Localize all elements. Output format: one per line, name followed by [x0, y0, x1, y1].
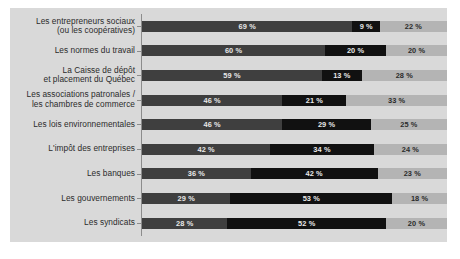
bar-segment-value: 42 %: [305, 169, 322, 178]
category-label-line2: les chambres de commerce: [10, 100, 135, 110]
category-label: Les entrepreneurs sociaux(ou les coopéra…: [10, 17, 141, 36]
chart-row: Les gouvernements29 %53 %18 %: [10, 186, 447, 211]
category-axis-line: [141, 14, 142, 236]
bar-segment-3: 25 %: [371, 119, 447, 130]
stacked-bar: 46 %21 %33 %: [142, 95, 447, 106]
bar-segment-1: 29 %: [142, 193, 230, 204]
bar-segment-value: 46 %: [204, 120, 221, 129]
category-label-line1: L'impôt des entreprises: [48, 143, 135, 153]
bar-segment-3: 28 %: [362, 70, 447, 81]
chart-row: Les entrepreneurs sociaux(ou les coopéra…: [10, 14, 447, 39]
bar-segment-2: 34 %: [270, 144, 374, 155]
bar-segment-2: 13 %: [322, 70, 362, 81]
bar-segment-value: 29 %: [318, 120, 335, 129]
bar-segment-1: 46 %: [142, 95, 282, 106]
bar-segment-value: 23 %: [404, 169, 421, 178]
bar-segment-2: 29 %: [282, 119, 370, 130]
chart-panel: Les entrepreneurs sociaux(ou les coopéra…: [10, 8, 447, 242]
chart-root: Les entrepreneurs sociaux(ou les coopéra…: [0, 0, 460, 259]
bar-segment-value: 20 %: [408, 219, 425, 228]
bar-segment-value: 34 %: [313, 145, 330, 154]
bar-segment-3: 20 %: [386, 45, 447, 56]
bar-segment-2: 52 %: [227, 218, 386, 229]
stacked-bar: 69 %9 %22 %: [142, 21, 447, 32]
category-label-line1: Les gouvernements: [61, 193, 135, 203]
bar-segment-3: 24 %: [374, 144, 447, 155]
bar-segment-1: 59 %: [142, 70, 322, 81]
chart-row: Les associations patronales /les chambre…: [10, 88, 447, 113]
chart-row: L'impôt des entreprises42 %34 %24 %: [10, 137, 447, 162]
bar-segment-1: 36 %: [142, 168, 251, 179]
bar-segment-value: 33 %: [388, 96, 405, 105]
bar-segment-1: 42 %: [142, 144, 270, 155]
stacked-bar: 60 %20 %20 %: [142, 45, 447, 56]
bar-segment-1: 69 %: [142, 21, 352, 32]
bar-segment-3: 20 %: [386, 218, 447, 229]
category-label-line1: Les normes du travail: [55, 45, 135, 55]
stacked-bar: 36 %42 %23 %: [142, 168, 447, 179]
bar-segment-value: 69 %: [239, 22, 256, 31]
bar-segment-1: 28 %: [142, 218, 227, 229]
category-label: Les banques: [10, 169, 141, 179]
bar-segment-2: 42 %: [251, 168, 378, 179]
bar-segment-3: 22 %: [380, 21, 447, 32]
chart-row: Les syndicats28 %52 %20 %: [10, 211, 447, 236]
category-label-line1: Les banques: [87, 168, 135, 178]
bar-segment-value: 28 %: [176, 219, 193, 228]
bar-segment-value: 20 %: [408, 46, 425, 55]
chart-plot-area: Les entrepreneurs sociaux(ou les coopéra…: [10, 14, 447, 236]
category-label: Les gouvernements: [10, 194, 141, 204]
bar-segment-2: 9 %: [352, 21, 379, 32]
bar-segment-value: 36 %: [188, 169, 205, 178]
category-label-line2: et placement du Québec: [10, 75, 135, 85]
category-label-line1: Les entrepreneurs sociaux: [36, 16, 135, 26]
category-label: Les syndicats: [10, 218, 141, 228]
category-label: L'impôt des entreprises: [10, 144, 141, 154]
chart-row: Les lois environnementales46 %29 %25 %: [10, 112, 447, 137]
stacked-bar: 46 %29 %25 %: [142, 119, 447, 130]
chart-row: Les normes du travail60 %20 %20 %: [10, 39, 447, 64]
bar-segment-value: 60 %: [225, 46, 242, 55]
bar-segment-value: 22 %: [405, 22, 422, 31]
bar-segment-value: 9 %: [360, 22, 373, 31]
category-label-line2: (ou les coopératives): [10, 26, 135, 36]
bar-segment-1: 60 %: [142, 45, 325, 56]
category-label: Les associations patronales /les chambre…: [10, 90, 141, 109]
bar-segment-value: 25 %: [400, 120, 417, 129]
bar-segment-value: 42 %: [197, 145, 214, 154]
stacked-bar: 28 %52 %20 %: [142, 218, 447, 229]
bar-segment-value: 46 %: [204, 96, 221, 105]
bar-segment-2: 21 %: [282, 95, 346, 106]
category-label-line1: La Caisse de dépôt: [63, 65, 135, 75]
bar-segment-value: 20 %: [347, 46, 364, 55]
bar-segment-value: 29 %: [178, 194, 195, 203]
bar-segment-3: 33 %: [346, 95, 447, 106]
stacked-bar: 42 %34 %24 %: [142, 144, 447, 155]
bar-segment-value: 59 %: [223, 71, 240, 80]
stacked-bar: 59 %13 %28 %: [142, 70, 447, 81]
category-label: Les lois environnementales: [10, 120, 141, 130]
category-label: La Caisse de dépôtet placement du Québec: [10, 66, 141, 85]
chart-row: Les banques36 %42 %23 %: [10, 162, 447, 187]
bar-segment-value: 53 %: [303, 194, 320, 203]
category-label-line1: Les lois environnementales: [33, 119, 135, 129]
category-label-line1: Les syndicats: [84, 217, 135, 227]
bar-segment-3: 23 %: [378, 168, 447, 179]
bar-segment-2: 53 %: [230, 193, 392, 204]
category-label: Les normes du travail: [10, 46, 141, 56]
bar-segment-value: 21 %: [306, 96, 323, 105]
bar-segment-2: 20 %: [325, 45, 386, 56]
bar-segment-value: 18 %: [411, 194, 428, 203]
bar-segment-1: 46 %: [142, 119, 282, 130]
category-label-line1: Les associations patronales /: [27, 89, 135, 99]
bar-segment-value: 24 %: [402, 145, 419, 154]
bar-segment-3: 18 %: [392, 193, 447, 204]
chart-row: La Caisse de dépôtet placement du Québec…: [10, 63, 447, 88]
stacked-bar: 29 %53 %18 %: [142, 193, 447, 204]
bar-segment-value: 52 %: [298, 219, 315, 228]
bar-segment-value: 13 %: [333, 71, 350, 80]
bar-segment-value: 28 %: [396, 71, 413, 80]
